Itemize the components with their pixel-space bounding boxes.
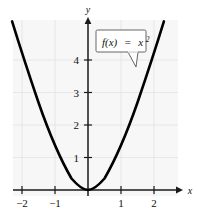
x-axis-label: x [187, 185, 193, 196]
x-tick-label-2: 2 [151, 197, 157, 209]
x-tick-label-1: 1 [118, 197, 124, 209]
x-tick-label--1: −1 [49, 197, 61, 209]
plot-panel-background [13, 20, 178, 196]
parabola-figure: −2 −1 1 2 1 2 3 4 x y f(x) = x 2 [0, 0, 199, 217]
y-tick-label-1: 1 [74, 152, 80, 164]
callout-equals: = [124, 36, 131, 48]
x-tick-label--2: −2 [16, 197, 28, 209]
y-axis-label: y [85, 4, 91, 15]
x-axis-arrow [176, 187, 183, 194]
y-tick-label-2: 2 [74, 119, 80, 131]
plot-canvas: −2 −1 1 2 1 2 3 4 x y f(x) = x 2 [0, 0, 199, 217]
callout-exponent: 2 [146, 35, 150, 44]
callout-variable: x [137, 36, 143, 48]
callout-fx: f(x) [102, 36, 118, 49]
y-tick-label-4: 4 [74, 54, 80, 66]
y-tick-label-3: 3 [74, 87, 80, 99]
callout-formula: f(x) = x 2 [102, 35, 150, 49]
